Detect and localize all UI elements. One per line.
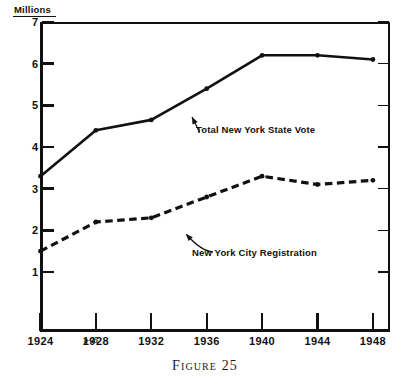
y-axis-line bbox=[40, 22, 43, 332]
x-axis-tick-label: 1932 bbox=[125, 335, 177, 347]
y-axis-tick bbox=[42, 187, 54, 189]
x-axis-line bbox=[40, 329, 390, 332]
y-axis-tick-right bbox=[378, 21, 389, 23]
y-axis-tick-right bbox=[378, 188, 389, 190]
y-axis-tick bbox=[42, 21, 54, 23]
y-axis-tick bbox=[42, 146, 54, 148]
y-axis-tick-label: 5 bbox=[16, 100, 38, 111]
annotation-nyc-registration: New York City Registration bbox=[192, 247, 317, 258]
y-axis-tick-label: 7 bbox=[16, 17, 38, 28]
page-mark-label: p-25 bbox=[84, 336, 98, 345]
y-axis-tick-right bbox=[378, 63, 389, 65]
plot-right-border bbox=[388, 22, 390, 332]
plot-top-border bbox=[40, 22, 390, 24]
x-axis-tick bbox=[39, 313, 41, 331]
x-axis-tick bbox=[95, 313, 97, 331]
x-axis-tick-label: 1940 bbox=[236, 335, 288, 347]
x-axis-tick-label: 1948 bbox=[347, 335, 399, 347]
caption-number: 25 bbox=[222, 358, 238, 373]
x-axis-tick bbox=[316, 313, 318, 331]
y-axis-tick-right bbox=[378, 146, 389, 148]
y-axis-tick-right bbox=[378, 105, 389, 107]
y-axis-tick bbox=[42, 62, 54, 64]
plot-area: 1234567 1924192819321936194019441948 p-2… bbox=[40, 22, 390, 332]
x-axis-tick-label: 1924 bbox=[15, 335, 67, 347]
y-axis-tick-right bbox=[378, 230, 389, 232]
caption-label: Figure bbox=[172, 358, 217, 373]
x-axis-tick-label: 1936 bbox=[181, 335, 233, 347]
x-axis-tick bbox=[150, 313, 152, 331]
annotation-total-state-vote: Total New York State Vote bbox=[196, 124, 315, 135]
y-axis-tick-label: 1 bbox=[16, 267, 38, 278]
y-axis-tick-label: 2 bbox=[16, 225, 38, 236]
figure-page: Millions 1234567 19241928193219361940194… bbox=[0, 0, 410, 384]
y-axis-tick bbox=[42, 229, 54, 231]
x-axis-tick bbox=[372, 313, 374, 331]
y-axis-tick-label: 3 bbox=[16, 183, 38, 194]
figure-caption: Figure 25 bbox=[0, 358, 410, 374]
x-axis-tick bbox=[261, 313, 263, 331]
y-axis-tick bbox=[42, 271, 54, 273]
y-axis-tick bbox=[42, 104, 54, 106]
y-axis-tick-right bbox=[378, 271, 389, 273]
y-axis-units-label: Millions bbox=[14, 4, 51, 15]
y-axis-tick-label: 6 bbox=[16, 58, 38, 69]
x-axis-tick bbox=[206, 313, 208, 331]
y-axis-tick-label: 4 bbox=[16, 142, 38, 153]
x-axis-tick-label: 1944 bbox=[292, 335, 344, 347]
